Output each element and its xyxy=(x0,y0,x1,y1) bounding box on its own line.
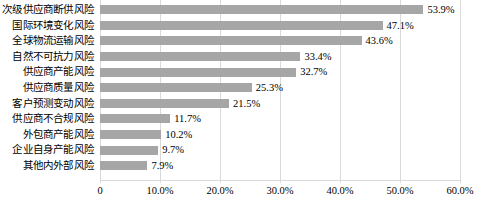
bar-value-label: 25.3% xyxy=(256,80,283,96)
bar-row: 外包商产能风险10.2% xyxy=(0,127,477,143)
x-axis: 010.0%20.0%30.0%40.0%50.0%60.0% xyxy=(0,180,477,212)
category-label: 国际环境变化风险 xyxy=(0,18,94,34)
x-tick-label: 40.0% xyxy=(326,185,353,196)
bar[interactable] xyxy=(100,99,229,108)
x-tick-mark-50 xyxy=(400,180,401,183)
bar-row: 供应商质量风险25.3% xyxy=(0,80,477,96)
bar-value-label: 7.9% xyxy=(151,158,173,174)
x-tick-mark-40 xyxy=(340,180,341,183)
bar[interactable] xyxy=(100,83,252,92)
category-label: 其他内外部风险 xyxy=(0,158,94,174)
x-tick-label: 60.0% xyxy=(446,185,473,196)
x-tick-mark-60 xyxy=(460,180,461,183)
x-tick-mark-30 xyxy=(280,180,281,183)
category-label: 供应商产能风险 xyxy=(0,64,94,80)
x-tick-mark-10 xyxy=(160,180,161,183)
bar-value-label: 11.7% xyxy=(174,111,201,127)
x-tick-label: 20.0% xyxy=(206,185,233,196)
bar[interactable] xyxy=(100,161,147,170)
chart-screenshot: 次级供应商断供风险53.9%国际环境变化风险47.1%全球物流运输风险43.6%… xyxy=(0,0,477,212)
bar-value-label: 33.4% xyxy=(304,49,331,65)
x-tick-label: 50.0% xyxy=(386,185,413,196)
bar[interactable] xyxy=(100,52,300,61)
bar[interactable] xyxy=(100,21,383,30)
bar[interactable] xyxy=(100,114,170,123)
bar-row: 供应商不合规风险11.7% xyxy=(0,111,477,127)
bar-row: 企业自身产能风险9.7% xyxy=(0,142,477,158)
bar[interactable] xyxy=(100,146,158,155)
bar-value-label: 43.6% xyxy=(366,33,393,49)
x-tick-mark-20 xyxy=(220,180,221,183)
x-tick-mark-0 xyxy=(100,180,101,183)
bar-row: 其他内外部风险7.9% xyxy=(0,158,477,174)
category-label: 供应商不合规风险 xyxy=(0,111,94,127)
bar-value-label: 21.5% xyxy=(233,96,260,112)
bar-rows: 次级供应商断供风险53.9%国际环境变化风险47.1%全球物流运输风险43.6%… xyxy=(0,0,477,180)
bar[interactable] xyxy=(100,5,423,14)
bar-value-label: 9.7% xyxy=(162,142,184,158)
bar-value-label: 10.2% xyxy=(165,127,192,143)
bar[interactable] xyxy=(100,68,296,77)
bar[interactable] xyxy=(100,36,362,45)
category-label: 全球物流运输风险 xyxy=(0,33,94,49)
bar-value-label: 53.9% xyxy=(427,2,454,18)
bar-row: 全球物流运输风险43.6% xyxy=(0,33,477,49)
x-tick-label: 10.0% xyxy=(146,185,173,196)
bar-value-label: 47.1% xyxy=(387,18,414,34)
bar-row: 次级供应商断供风险53.9% xyxy=(0,2,477,18)
category-label: 客户预测变动风险 xyxy=(0,96,94,112)
category-label: 供应商质量风险 xyxy=(0,80,94,96)
x-tick-label: 0 xyxy=(97,185,102,196)
bar-value-label: 32.7% xyxy=(300,64,327,80)
bar-row: 自然不可抗力风险33.4% xyxy=(0,49,477,65)
bar[interactable] xyxy=(100,130,161,139)
category-label: 外包商产能风险 xyxy=(0,127,94,143)
category-label: 自然不可抗力风险 xyxy=(0,49,94,65)
x-tick-label: 30.0% xyxy=(266,185,293,196)
category-label: 企业自身产能风险 xyxy=(0,142,94,158)
bar-row: 供应商产能风险32.7% xyxy=(0,64,477,80)
bar-row: 国际环境变化风险47.1% xyxy=(0,18,477,34)
bar-row: 客户预测变动风险21.5% xyxy=(0,96,477,112)
category-label: 次级供应商断供风险 xyxy=(0,2,94,18)
